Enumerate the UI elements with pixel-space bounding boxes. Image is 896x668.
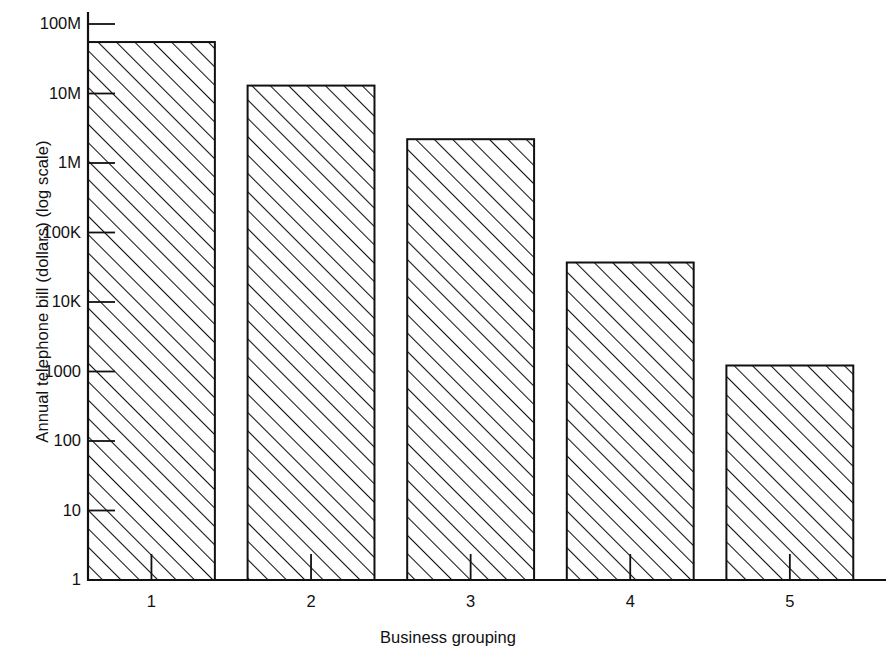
x-tick-label-4: 4 bbox=[600, 592, 660, 611]
x-axis-title: Business grouping bbox=[0, 628, 896, 647]
bar-2 bbox=[248, 86, 375, 580]
x-tick-label-5: 5 bbox=[760, 592, 820, 611]
plot-area bbox=[0, 0, 896, 668]
bars-group bbox=[88, 42, 853, 580]
x-tick-label-2: 2 bbox=[281, 592, 341, 611]
bar-3 bbox=[407, 139, 534, 580]
x-tick-label-3: 3 bbox=[441, 592, 501, 611]
x-tick-label-1: 1 bbox=[121, 592, 181, 611]
bar-1 bbox=[88, 42, 215, 580]
chart-container: Annual telephone bill (dollars) (log sca… bbox=[0, 0, 896, 668]
bar-4 bbox=[567, 263, 694, 580]
bar-5 bbox=[726, 365, 853, 580]
